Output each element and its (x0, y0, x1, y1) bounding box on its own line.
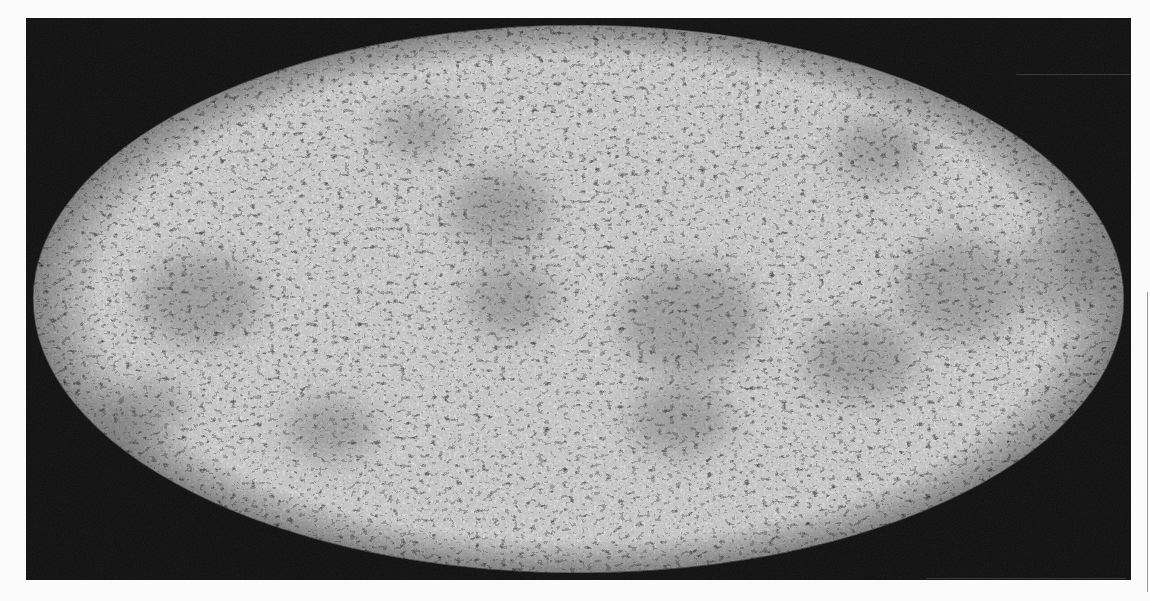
mollweide-sky-map (26, 18, 1131, 580)
sky-map-frame (26, 18, 1131, 580)
edge-line (1147, 292, 1148, 592)
sky-map-canvas (0, 0, 1150, 601)
scan-artifact (1016, 74, 1131, 75)
scan-artifact (926, 578, 1126, 579)
